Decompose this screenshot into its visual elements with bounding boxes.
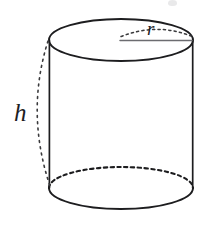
cylinder-figure: h r: [0, 0, 202, 241]
radius-label: r: [147, 19, 154, 38]
cylinder-body-fill: [49, 40, 193, 209]
height-label: h: [14, 100, 27, 125]
cylinder-diagram-svg: [0, 0, 202, 241]
page-bleed-artifact: [168, 0, 177, 6]
